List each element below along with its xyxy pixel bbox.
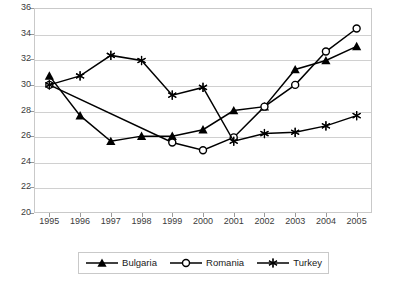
y-tick-label: 30 (3, 80, 31, 89)
gridline (35, 137, 371, 138)
legend-label: Turkey (292, 258, 322, 268)
gridline (35, 112, 371, 113)
gridline (35, 35, 371, 36)
asterisk-icon (256, 257, 290, 269)
legend-item-romania[interactable]: Romania (169, 257, 244, 269)
chart-legend: BulgariaRomaniaTurkey (78, 252, 329, 274)
y-tick-label: 28 (3, 106, 31, 115)
y-tick-label: 26 (3, 131, 31, 140)
legend-label: Bulgaria (121, 258, 157, 268)
y-tick-label: 20 (3, 208, 31, 217)
gridline (35, 86, 371, 87)
y-tick-label: 32 (3, 54, 31, 63)
legend-item-turkey[interactable]: Turkey (256, 257, 322, 269)
y-tick-label: 36 (3, 3, 31, 12)
plot-area (34, 8, 372, 213)
y-tick-label: 22 (3, 182, 31, 191)
legend-label: Romania (205, 258, 244, 268)
open-circle-marker (183, 260, 190, 267)
gridline (35, 188, 371, 189)
y-tick-label: 24 (3, 157, 31, 166)
line-chart: 202224262830323436 199519961997199819992… (0, 0, 407, 281)
open-circle-icon (169, 257, 203, 269)
legend-item-bulgaria[interactable]: Bulgaria (85, 257, 157, 269)
gridline (35, 163, 371, 164)
filled-triangle-icon (85, 257, 119, 269)
x-tick-label: 2005 (334, 217, 380, 226)
y-tick-label: 34 (3, 29, 31, 38)
gridline (35, 60, 371, 61)
